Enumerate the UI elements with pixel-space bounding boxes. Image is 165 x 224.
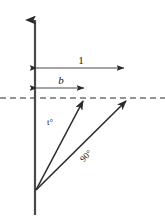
angle-right-label: 90°	[78, 148, 94, 164]
vector-angle-diagram: 1 b t° 90°	[0, 0, 165, 224]
b-length-label: b	[58, 74, 64, 86]
angle-small-label: t°	[47, 117, 54, 127]
unit-length-label: 1	[78, 54, 84, 66]
vector-long-arrow	[36, 101, 126, 190]
vector-short-arrow	[36, 101, 83, 190]
